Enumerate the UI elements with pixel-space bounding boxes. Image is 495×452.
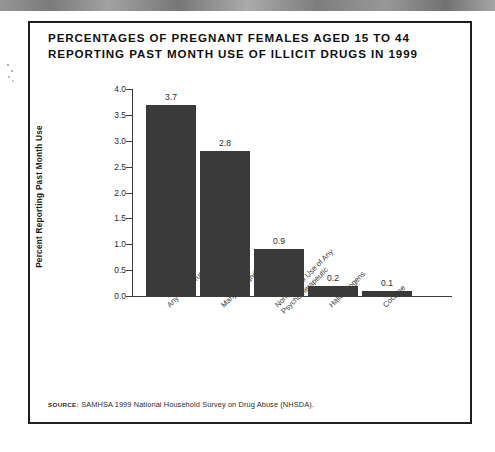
source-kicker: SOURCE:	[48, 401, 79, 408]
figure-frame	[28, 21, 472, 424]
source-note: SOURCE: SAMHSA 1999 National Household S…	[48, 400, 314, 409]
source-text: SAMHSA 1999 National Household Survey on…	[81, 400, 314, 409]
figure-title: PERCENTAGES OF PREGNANT FEMALES AGED 15 …	[48, 30, 448, 62]
scan-artifact-top-strip	[0, 0, 495, 11]
scan-artifact-speckle	[6, 62, 15, 84]
figure-title-line-1: PERCENTAGES OF PREGNANT FEMALES AGED 15 …	[48, 30, 448, 46]
figure-title-line-2: REPORTING PAST MONTH USE OF ILLICIT DRUG…	[48, 46, 448, 62]
